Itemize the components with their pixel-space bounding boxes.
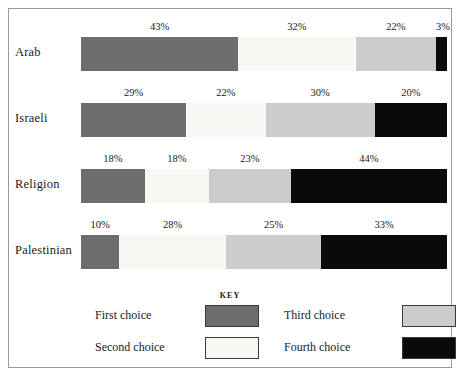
bar-segment-value: 22%: [356, 21, 437, 33]
bar-segment: [321, 235, 447, 269]
bar-segment-value: 25%: [226, 219, 321, 231]
bar-segment-value: 10%: [81, 219, 119, 231]
bar-segment-value: 43%: [81, 21, 238, 33]
bar-row-label: Israeli: [15, 111, 79, 125]
bar-segment: [209, 169, 291, 203]
chart-legend: KEY First choice Second choice Third cho…: [9, 291, 451, 369]
bar-row: Palestinian10%28%25%33%: [9, 217, 451, 273]
bar-segment: [226, 235, 321, 269]
bar-segment: [81, 235, 119, 269]
bar-row: Religion18%18%23%44%: [9, 151, 451, 207]
bar-track: 10%28%25%33%: [81, 235, 447, 269]
bar-row-label: Palestinian: [15, 243, 79, 257]
bar-segment: [356, 37, 437, 71]
bar-segment: [436, 37, 447, 71]
bar-segment-value: 18%: [81, 153, 145, 165]
legend-item-third-choice: Third choice: [284, 303, 461, 329]
bar-segment-value: 29%: [81, 87, 186, 99]
bar-segment-value: 22%: [186, 87, 266, 99]
bar-segment: [81, 103, 186, 137]
bar-segment-value: 28%: [119, 219, 226, 231]
legend-item-second-choice: Second choice: [95, 335, 270, 361]
bar-row-label: Arab: [15, 45, 79, 59]
legend-label: Second choice: [95, 340, 165, 354]
bar-segment-value: 33%: [321, 219, 447, 231]
bar-segment: [375, 103, 447, 137]
bar-row: Arab43%32%22%3%: [9, 19, 451, 75]
bar-segment: [81, 37, 238, 71]
bar-track: 18%18%23%44%: [81, 169, 447, 203]
bar-segment-value: 18%: [145, 153, 209, 165]
bar-segment-value: 30%: [266, 87, 375, 99]
bar-segment: [238, 37, 355, 71]
legend-swatch-third-choice: [402, 305, 456, 327]
legend-item-first-choice: First choice: [95, 303, 270, 329]
legend-title: KEY: [9, 291, 451, 300]
legend-label: Third choice: [284, 308, 345, 322]
legend-swatch-fourth-choice: [402, 337, 456, 359]
bar-segment: [291, 169, 447, 203]
legend-swatch-second-choice: [205, 337, 259, 359]
legend-label: First choice: [95, 308, 151, 322]
bar-segment: [145, 169, 209, 203]
legend-swatch-first-choice: [205, 305, 259, 327]
bar-segment: [266, 103, 375, 137]
bar-segment-value: 3%: [436, 21, 447, 33]
bar-row: Israeli29%22%30%20%: [9, 85, 451, 141]
bar-segment-value: 23%: [209, 153, 291, 165]
legend-item-fourth-choice: Fourth choice: [284, 335, 461, 361]
legend-label: Fourth choice: [284, 340, 350, 354]
bar-segment: [119, 235, 226, 269]
bar-segment-value: 20%: [375, 87, 447, 99]
bar-segment-value: 32%: [238, 21, 355, 33]
bar-segment: [81, 169, 145, 203]
bar-row-label: Religion: [15, 177, 79, 191]
bar-segment-value: 44%: [291, 153, 447, 165]
bar-track: 29%22%30%20%: [81, 103, 447, 137]
chart-frame: Arab43%32%22%3%Israeli29%22%30%20%Religi…: [8, 8, 452, 368]
bar-segment: [186, 103, 266, 137]
bar-track: 43%32%22%3%: [81, 37, 447, 71]
